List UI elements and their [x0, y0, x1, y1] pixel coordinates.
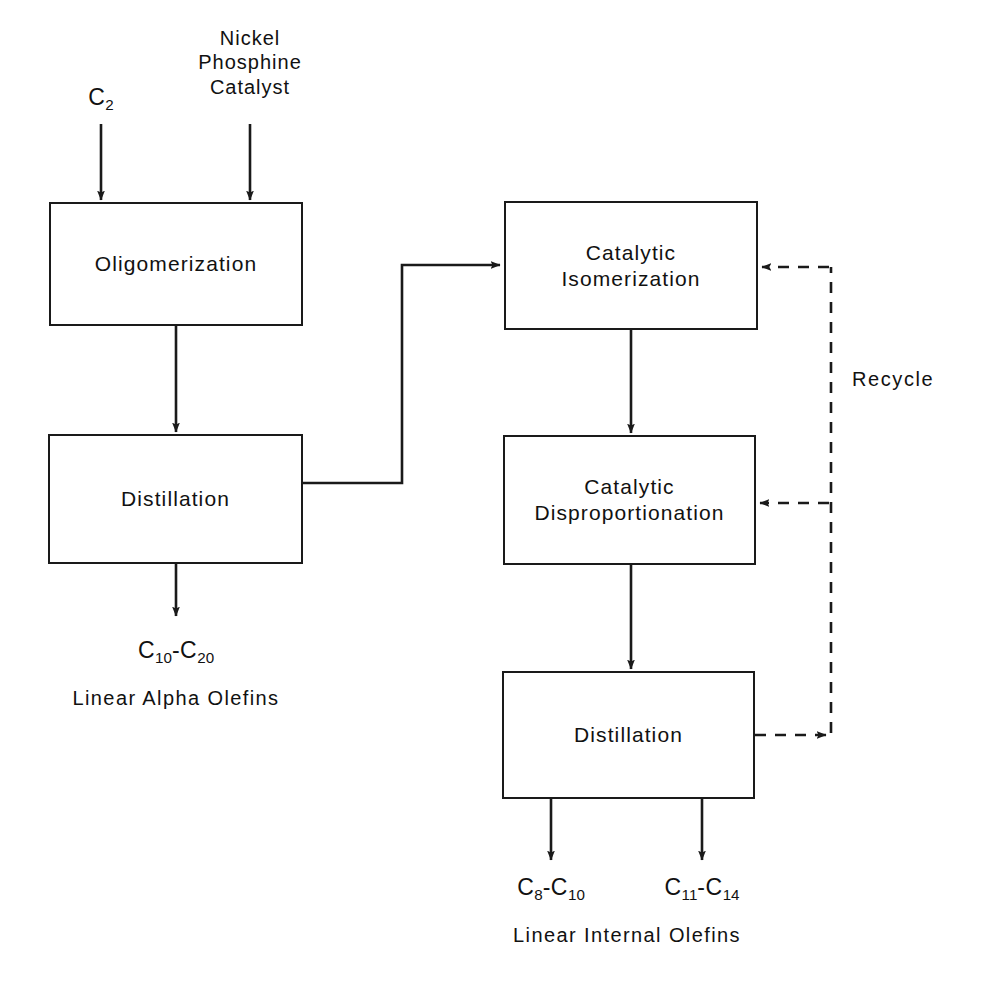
c8-c10-range-dash: -C — [543, 874, 568, 900]
alpha-olefin-c-low: C — [138, 637, 155, 663]
alpha-olefin-range-dash: -C — [172, 637, 197, 663]
recycle-stream-label: Recycle — [852, 368, 934, 391]
alpha-olefin-sub-high: 20 — [197, 649, 214, 666]
c11-c14-sub-high: 14 — [723, 886, 740, 903]
feed-label-catalyst: Nickel Phosphine Catalyst — [150, 26, 350, 99]
c8-c10-sub-high: 10 — [568, 886, 585, 903]
product-label-c8-c10: C8-C10 — [466, 874, 636, 901]
unit-oligomerization-label: Oligomerization — [95, 251, 257, 277]
unit-catalytic-disproportionation-label: Catalytic Disproportionation — [534, 474, 724, 525]
caption-linear-internal-olefins: Linear Internal Olefins — [477, 924, 777, 947]
c11-c14-range-dash: -C — [697, 874, 722, 900]
unit-right-distillation-label: Distillation — [574, 722, 683, 748]
unit-right-distillation[interactable]: Distillation — [502, 671, 755, 799]
c8-c10-sub-low: 8 — [534, 886, 542, 903]
c11-c14-c-low: C — [664, 874, 681, 900]
unit-catalytic-disproportionation[interactable]: Catalytic Disproportionation — [503, 435, 756, 565]
feed-label-ethylene: C2 — [41, 84, 161, 111]
c8-c10-c-low: C — [517, 874, 534, 900]
caption-linear-alpha-olefins: Linear Alpha Olefins — [36, 687, 316, 710]
unit-catalytic-isomerization[interactable]: Catalytic Isomerization — [504, 201, 758, 330]
c11-c14-sub-low: 11 — [682, 886, 698, 903]
unit-catalytic-isomerization-label: Catalytic Isomerization — [561, 240, 700, 291]
product-label-alpha-olefins: C10-C20 — [76, 637, 276, 664]
unit-left-distillation[interactable]: Distillation — [48, 434, 303, 564]
arrow-distillate-to-isomerization — [303, 265, 500, 483]
product-label-c11-c14: C11-C14 — [617, 874, 787, 901]
feed-ethylene-element: C — [88, 84, 105, 110]
unit-oligomerization[interactable]: Oligomerization — [49, 202, 303, 326]
process-flow-diagram: Oligomerization Distillation Catalytic I… — [0, 0, 981, 981]
unit-left-distillation-label: Distillation — [121, 486, 230, 512]
alpha-olefin-sub-low: 10 — [155, 649, 172, 666]
feed-ethylene-subscript: 2 — [105, 96, 113, 113]
